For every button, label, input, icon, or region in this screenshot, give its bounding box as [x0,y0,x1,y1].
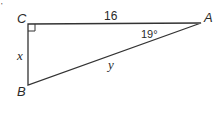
vertex-label-c: C [17,11,27,26]
vertex-label-a: A [203,10,213,25]
angle-label-a: 19° [141,28,158,40]
corner-mark: ' [1,1,3,10]
vertex-label-b: B [17,84,26,99]
side-label-cb: x [16,48,23,63]
triangle-abc [28,23,201,85]
side-label-ca: 16 [104,9,118,23]
side-label-ab: y [106,57,114,72]
triangle-diagram: ' C A B 16 x y 19° [0,0,224,114]
right-angle-marker [28,24,35,31]
